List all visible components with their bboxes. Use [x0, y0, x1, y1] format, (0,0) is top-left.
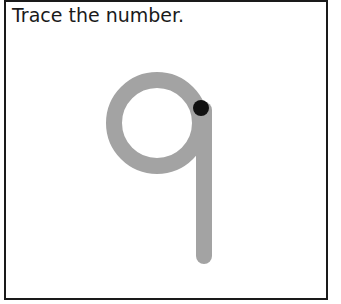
trace-digit-nine[interactable] — [0, 0, 341, 304]
start-point-dot[interactable] — [193, 100, 209, 116]
nine-loop-path — [114, 80, 200, 166]
